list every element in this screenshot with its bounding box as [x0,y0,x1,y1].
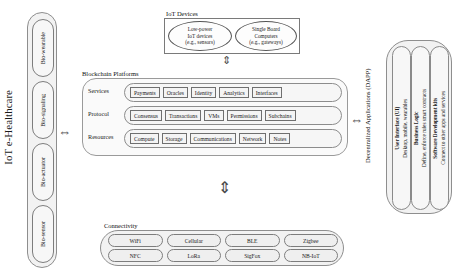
blockchain-row-services: Payments Oracles Identity Analytics Inte… [124,83,342,102]
node-low-power-line1: Low-power [188,26,213,33]
dapp-sdk-title: Software Development kits [432,98,438,159]
connectivity-caption: Connectivity [104,222,138,229]
connectivity-row-2: NFC LoRa SigFox NB-IoT [108,249,338,262]
chip-nbiot[interactable]: NB-IoT [284,249,339,262]
chip-interfaces[interactable]: Interfaces [252,87,282,98]
node-low-power-iot-devices[interactable]: Low-power IoT devices (e.g., sensors) [168,21,232,51]
chip-wifi[interactable]: WiFi [108,234,163,247]
chip-consensus[interactable]: Consensus [130,110,162,121]
chip-nfc[interactable]: NFC [108,249,163,262]
blockchain-row-resources: Compute Storage Communications Network N… [124,129,342,148]
arrow-iot-to-blockchain-icon: ⇕ [222,54,231,67]
chip-vms[interactable]: VMs [204,110,223,121]
dapp-bl-title: Business Logic [413,111,419,144]
chip-network[interactable]: Network [239,133,267,144]
dapp-column: User Interface (UI) Desktop, mobile, wea… [386,40,452,214]
node-sbc-line2: Computers [254,33,277,40]
chip-identity[interactable]: Identity [191,87,216,98]
node-bio-wearable-label: Bio-wearable [40,32,46,64]
connectivity-row-1: WiFi Cellular BLE Zigbee [108,234,338,247]
node-bio-actuator[interactable]: Bio-actuator [32,143,54,201]
node-bio-actuator-label: Bio-actuator [40,157,46,187]
chip-sigfox[interactable]: SigFox [225,249,280,262]
chip-zigbee[interactable]: Zigbee [284,234,339,247]
arrow-blockchain-to-dapp-icon: ⇔ [350,112,363,128]
chip-storage[interactable]: Storage [162,133,187,144]
blockchain-row-label-resources: Resources [88,133,113,140]
page-title-iot-ehealthcare: IoT e-Healthcare [2,90,14,165]
dapp-caption: Decentralized Applications (DAPP) [364,46,371,186]
blockchain-platforms-caption: Blockchain Platforms [82,70,139,77]
arrow-blockchain-to-connectivity-icon: ⇕ [218,178,231,197]
node-low-power-line2: IoT devices [188,33,213,40]
chip-analytics[interactable]: Analytics [219,87,248,98]
healthcare-column: Bio-wearable Bio-signaling Bio-actuator … [27,12,57,268]
dapp-item-user-interface[interactable]: User Interface (UI) Desktop, mobile, wea… [392,46,411,210]
blockchain-row-label-protocol: Protocol [88,110,109,117]
chip-ble[interactable]: BLE [225,234,280,247]
chip-communications[interactable]: Communications [190,133,236,144]
node-bio-signaling-label: Bio-signaling [40,94,46,127]
dapp-bl-subtitle: Define, enforce rules smart contracts [421,89,427,167]
node-bio-sensor-label: Bio-sensor [40,221,46,247]
chip-notes[interactable]: Notes [269,133,290,144]
blockchain-row-protocol: Consensus Transactions VMs Permissions S… [124,106,342,125]
chip-payments[interactable]: Payments [130,87,160,98]
chip-permissions[interactable]: Permissions [227,110,262,121]
dapp-sdk-subtitle: Connect to other apps and services [440,91,446,165]
chip-oracles[interactable]: Oracles [163,87,188,98]
chip-compute[interactable]: Compute [130,133,159,144]
blockchain-row-label-services: Services [88,87,109,94]
node-bio-sensor[interactable]: Bio-sensor [32,205,54,263]
chip-cellular[interactable]: Cellular [167,234,222,247]
chip-transactions[interactable]: Transactions [165,110,201,121]
dapp-ui-subtitle: Desktop, mobile, wearables [402,99,408,158]
node-sbc-line1: Single Board [252,26,280,33]
arrow-healthcare-to-iot-icon: ⇔ [58,124,71,140]
dapp-item-business-logic[interactable]: Business Logic Define, enforce rules sma… [411,46,430,210]
dapp-item-sdk[interactable]: Software Development kits Connect to oth… [430,46,449,210]
chip-subchains[interactable]: Subchains [265,110,296,121]
node-low-power-line3: (e.g., sensors) [185,39,214,46]
dapp-ui-title: User Interface (UI) [394,106,400,149]
node-sbc-line3: (e.g., gateways) [249,39,283,46]
node-bio-signaling[interactable]: Bio-signaling [32,81,54,139]
node-single-board-computers[interactable]: Single Board Computers (e.g., gateways) [235,21,297,51]
node-bio-wearable[interactable]: Bio-wearable [32,19,54,77]
iot-devices-caption: IoT Devices [166,10,198,17]
diagram-canvas: IoT e-Healthcare Bio-wearable Bio-signal… [0,0,469,279]
chip-lora[interactable]: LoRa [167,249,222,262]
